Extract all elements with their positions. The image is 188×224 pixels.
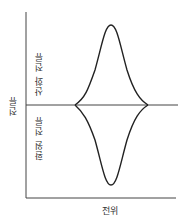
x-axis-label: 전위	[102, 204, 118, 217]
oxidation-current-label: 산화 전류	[32, 52, 45, 96]
oxidation-curve	[75, 25, 148, 105]
reduction-curve	[75, 105, 148, 185]
reduction-current-label: 환원 전류	[32, 116, 45, 160]
y-axis-label: 전류	[6, 96, 19, 116]
voltammogram-diagram	[0, 0, 188, 224]
